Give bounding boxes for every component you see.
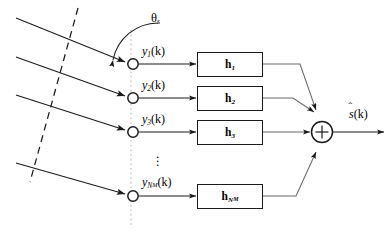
beamformer-diagram bbox=[0, 0, 392, 236]
output-arg: (k) bbox=[354, 107, 368, 121]
filter-block-h3[interactable]: h3 bbox=[197, 120, 263, 145]
filter-label-h1: h1 bbox=[225, 58, 235, 72]
sensor-ellipsis: ... bbox=[156, 152, 159, 164]
filter-label-h2: h2 bbox=[225, 92, 235, 106]
filter-summer-links bbox=[262, 64, 316, 196]
link-h1-sum bbox=[262, 64, 316, 110]
wave-ray-3 bbox=[16, 95, 125, 130]
filter-label-hnm: hNM bbox=[222, 190, 239, 204]
sensor-circle-1 bbox=[128, 59, 138, 69]
signal-label-nm: yNM(k) bbox=[142, 176, 172, 189]
filter-block-hnm[interactable]: hNM bbox=[197, 184, 263, 209]
sensor-circle-3 bbox=[128, 127, 138, 137]
wave-ray-1 bbox=[16, 18, 125, 62]
signal-label-3: y3(k) bbox=[142, 113, 165, 126]
link-h2-sum bbox=[262, 98, 314, 112]
sensor-circles bbox=[128, 59, 138, 201]
wave-ray-2 bbox=[16, 57, 125, 96]
filter-block-h2[interactable]: h2 bbox=[197, 86, 263, 111]
filter-block-h1[interactable]: h1 bbox=[197, 52, 263, 77]
incoming-wave-rays bbox=[16, 18, 125, 194]
steering-angle-label: θs bbox=[151, 12, 160, 26]
theta-subscript: s bbox=[157, 17, 160, 26]
wavefront-dashed-line bbox=[30, 8, 78, 182]
filter-label-h3: h3 bbox=[225, 126, 235, 140]
signal-label-2: y2(k) bbox=[142, 79, 165, 92]
wave-ray-4 bbox=[16, 163, 125, 194]
signal-label-1: y1(k) bbox=[142, 45, 165, 58]
link-hnm-sum bbox=[262, 152, 316, 196]
output-label: ˆs(k) bbox=[349, 108, 368, 120]
sensor-circle-2 bbox=[128, 93, 138, 103]
output-hat: ˆ bbox=[349, 101, 353, 112]
sensor-circle-nm bbox=[128, 191, 138, 201]
